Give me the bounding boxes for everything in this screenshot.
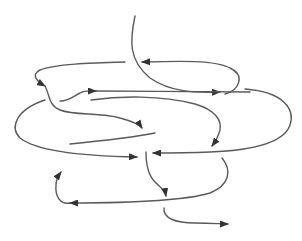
center-down-stem-arrow [146, 152, 166, 196]
right-lower-swoop-arrow [70, 158, 228, 203]
diagram-canvas [0, 0, 302, 241]
top-loop-return-arrow [142, 61, 239, 94]
mid-right-loop-arrow [153, 89, 291, 153]
mid-inner-curve-arrow [91, 97, 220, 146]
big-left-loop-arrow [15, 100, 137, 157]
arrow-paths [15, 16, 291, 224]
upper-long-right-arrow [96, 91, 250, 92]
bottom-tail-arrow [164, 208, 228, 224]
top-stem-arrow [132, 16, 220, 92]
mid-short-left-arrow [70, 133, 155, 144]
upper-left-hook-arrow [35, 62, 125, 86]
left-descending-s-arrow [45, 86, 142, 128]
left-up-hook-arrow [56, 172, 70, 203]
